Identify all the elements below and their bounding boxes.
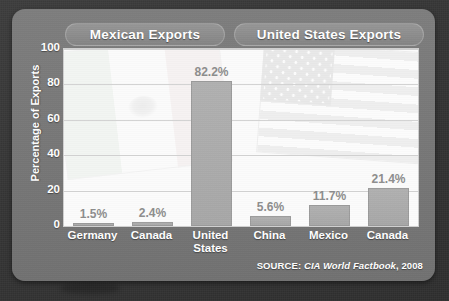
bar (368, 188, 409, 226)
y-tick-label: 40 (28, 148, 60, 160)
x-axis-category-labels: GermanyCanadaUnitedStatesChinaMexicoCana… (63, 229, 419, 263)
bar (132, 222, 173, 226)
gridline (64, 191, 418, 192)
group-header-united-states-exports: United States Exports (234, 23, 424, 46)
gridline (64, 120, 418, 121)
bar (250, 216, 291, 226)
flag-band-green (63, 48, 123, 180)
chart-panel: Mexican Exports United States Exports Pe… (12, 9, 435, 281)
source-prefix: SOURCE: (257, 260, 304, 271)
source-year: , 2008 (396, 260, 423, 271)
x-category-label: Canada (348, 229, 428, 242)
x-category-label-line: States (171, 242, 251, 255)
bar-value-label: 21.4% (357, 172, 420, 186)
plot-area: 1.5%2.4%82.2%5.6%11.7%21.4% (63, 48, 419, 227)
source-title: CIA World Factbook (304, 260, 396, 271)
y-tick-label: 80 (28, 77, 60, 89)
x-category-label-line: Canada (348, 229, 428, 242)
flag-canton (260, 48, 335, 106)
united-states-flag-watermark-icon (256, 48, 419, 165)
source-note: SOURCE: CIA World Factbook, 2008 (257, 260, 423, 271)
gridline (64, 49, 418, 50)
group-header-label: Mexican Exports (90, 27, 200, 42)
group-header-label: United States Exports (257, 27, 401, 42)
bar-value-label: 5.6% (239, 200, 303, 214)
bar-value-label: 11.7% (298, 189, 362, 203)
bar-value-label: 82.2% (180, 65, 244, 79)
y-tick-label: 20 (28, 184, 60, 196)
y-tick-label: 100 (28, 42, 60, 54)
y-tick-label: 60 (28, 113, 60, 125)
flag-stars (263, 48, 333, 104)
bar (309, 205, 350, 226)
bar (191, 81, 232, 226)
panel-drop-shadow (60, 283, 120, 294)
gridline (64, 155, 418, 156)
bar-value-label: 1.5% (63, 207, 126, 221)
mexican-coat-of-arms-icon (127, 94, 159, 119)
group-header-mexican-exports: Mexican Exports (65, 23, 225, 46)
gridline (64, 84, 418, 85)
bar-value-label: 2.4% (121, 206, 185, 220)
flag-stripes (256, 48, 419, 165)
bar (73, 223, 114, 226)
